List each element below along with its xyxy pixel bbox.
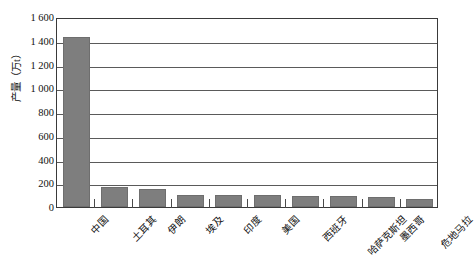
y-tick-label: 400 <box>14 156 54 166</box>
x-tick-mark <box>285 199 286 208</box>
x-axis-category-labels: 中国土耳其伊朗埃及印度美国西班牙哈萨克斯坦墨西哥危地马拉 <box>56 208 438 273</box>
bar <box>330 196 357 207</box>
x-category-label: 土耳其 <box>130 214 159 243</box>
bar <box>406 199 433 207</box>
x-tick-mark <box>209 199 210 208</box>
y-tick-label: 1 000 <box>14 84 54 94</box>
x-tick-mark <box>400 199 401 208</box>
x-tick-mark <box>362 199 363 208</box>
bar <box>215 195 242 207</box>
x-category-label: 美国 <box>280 214 302 236</box>
y-tick-label: 800 <box>14 108 54 118</box>
x-tick-mark <box>323 199 324 208</box>
y-tick-label: 1 400 <box>14 37 54 47</box>
y-tick-label: 600 <box>14 132 54 142</box>
bar <box>177 195 204 207</box>
bar <box>101 187 128 207</box>
x-category-label: 埃及 <box>204 214 226 236</box>
y-axis-tick-labels: 1 6001 4001 2001 0008006004002000 <box>14 18 54 208</box>
x-tick-mark <box>171 199 172 208</box>
bar <box>368 197 395 207</box>
x-tick-mark <box>247 199 248 208</box>
plot-area <box>56 18 438 208</box>
y-tick-label: 1 600 <box>14 13 54 23</box>
x-category-label: 中国 <box>89 214 111 236</box>
bar <box>63 37 90 207</box>
x-category-label: 伊朗 <box>165 214 187 236</box>
x-tick-mark <box>132 199 133 208</box>
x-tick-mark <box>94 199 95 208</box>
x-category-label: 印度 <box>242 214 264 236</box>
y-tick-label: 1 200 <box>14 61 54 71</box>
x-category-label: 危地马拉 <box>439 214 475 250</box>
y-tick-label: 200 <box>14 179 54 189</box>
x-category-label: 西班牙 <box>321 214 350 243</box>
bar <box>254 195 281 207</box>
y-tick-label: 0 <box>14 203 54 213</box>
bar <box>139 189 166 207</box>
bars-layer <box>57 19 437 207</box>
bar <box>292 196 319 207</box>
